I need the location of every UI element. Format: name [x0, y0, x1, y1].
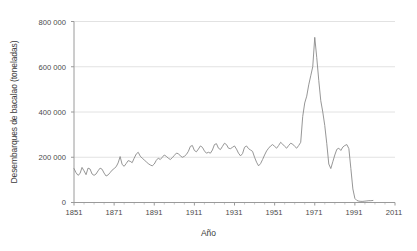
- x-tick-label-1851: 1851: [54, 208, 94, 217]
- x-tick-label-1871: 1871: [94, 208, 134, 217]
- y-tick-label-0: 0: [22, 198, 66, 207]
- x-tick-label-1891: 1891: [134, 208, 174, 217]
- x-tick-label-1931: 1931: [214, 208, 254, 217]
- x-tick-label-2011: 2011: [374, 208, 414, 217]
- cod-landings-chart: Desembarques de bacalao (toneladas) Año …: [0, 0, 417, 251]
- data-line-series-0: [74, 37, 373, 201]
- gridlines: [74, 22, 395, 158]
- y-tick-label-400000: 400 000: [22, 108, 66, 117]
- y-tick-label-200000: 200 000: [22, 153, 66, 162]
- x-tick-label-1991: 1991: [334, 208, 374, 217]
- x-tick-label-1951: 1951: [254, 208, 294, 217]
- x-axis-title: Año: [0, 228, 417, 238]
- y-axis-title: Desembarques de bacalao (toneladas): [9, 12, 19, 212]
- y-tick-label-600000: 600 000: [22, 63, 66, 72]
- axis-ticks: [71, 22, 395, 206]
- y-tick-label-800000: 800 000: [22, 18, 66, 27]
- x-tick-label-1911: 1911: [174, 208, 214, 217]
- x-tick-label-1971: 1971: [294, 208, 334, 217]
